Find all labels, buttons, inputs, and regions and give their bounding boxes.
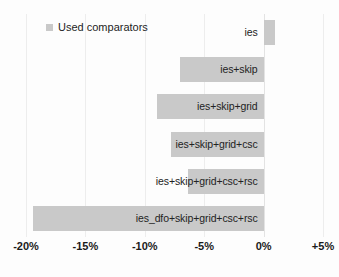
bar-category-label: ies_dfo+skip+grid+csc+rsc [26, 206, 258, 231]
bar-row: ies_dfo+skip+grid+csc+rsc [26, 203, 323, 234]
bar-category-label: ies+skip+grid+csc [26, 132, 258, 157]
bar-row: ies+skip [26, 54, 323, 85]
legend-swatch-icon [46, 24, 53, 31]
bar-category-label: ies+skip+grid [26, 94, 258, 119]
x-tick-label: -15% [73, 240, 99, 252]
bar-row: ies+skip+grid+csc [26, 129, 323, 160]
bar-row: ies+skip+grid [26, 91, 323, 122]
bar-category-label: ies+skip [26, 57, 258, 82]
gridline [323, 14, 324, 237]
x-tick-label: 0% [256, 240, 272, 252]
x-tick-label: +5% [312, 240, 334, 252]
x-tick-label: -10% [132, 240, 158, 252]
bar-row: ies+skip+grid+csc+rsc [26, 166, 323, 197]
bar[interactable] [264, 20, 276, 45]
x-axis: -20%-15%-10%-5%0%+5% [26, 240, 323, 260]
chart-legend: Used comparators [46, 21, 148, 33]
plot-area: iesies+skipies+skip+gridies+skip+grid+cs… [26, 14, 323, 237]
x-tick-label: -5% [194, 240, 214, 252]
legend-label: Used comparators [58, 21, 148, 33]
bar-category-label: ies+skip+grid+csc+rsc [26, 169, 258, 194]
bar-chart: iesies+skipies+skip+gridies+skip+grid+cs… [0, 0, 339, 277]
x-tick-label: -20% [13, 240, 39, 252]
